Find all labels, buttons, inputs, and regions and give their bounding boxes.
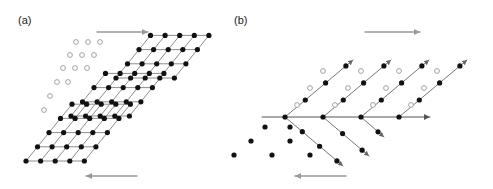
vertex-atom	[396, 114, 401, 119]
lattice-shear-diagram: (a) (b)	[0, 0, 493, 189]
filled-atom	[58, 116, 63, 121]
lattice-bond	[128, 50, 140, 64]
lattice-bond	[107, 118, 119, 132]
filled-atom	[169, 61, 174, 66]
filled-atom	[61, 130, 66, 135]
filled-atom	[183, 61, 188, 66]
filled-atom	[105, 130, 110, 135]
filled-atom	[161, 71, 166, 76]
filled-atom	[68, 113, 73, 118]
filled-atom	[303, 97, 308, 102]
panel-b: (b)	[231, 14, 467, 176]
filled-atom	[23, 158, 28, 163]
lattice-bond	[78, 118, 90, 132]
vacant-site	[61, 66, 66, 71]
lattice-bond	[49, 118, 61, 132]
lattice-bond	[171, 50, 183, 64]
vacant-site	[397, 69, 402, 74]
filled-atom	[360, 148, 365, 153]
filled-atom	[109, 99, 114, 104]
vacant-site	[85, 66, 90, 71]
filled-atom	[95, 99, 100, 104]
vertex-atom	[358, 114, 363, 119]
filled-atom	[417, 97, 422, 102]
lattice-bond	[160, 64, 172, 78]
filled-atom	[128, 75, 133, 80]
lattice-bond	[96, 133, 108, 147]
vacant-site	[384, 86, 389, 91]
filled-atom	[103, 71, 108, 76]
filled-atom	[67, 158, 72, 163]
filled-atom	[80, 99, 85, 104]
lattice-bond	[141, 88, 153, 102]
loose-atom	[307, 152, 312, 157]
lattice-bond	[145, 64, 157, 78]
vacant-site	[308, 86, 313, 91]
vacant-site	[359, 69, 364, 74]
lattice-bond	[116, 64, 128, 78]
lattice-bond	[64, 118, 76, 132]
filled-atom	[180, 47, 185, 52]
filled-atom	[341, 97, 346, 102]
lattice-bond	[55, 147, 66, 161]
figure-container: (a) (b)	[0, 0, 493, 189]
filled-atom	[118, 71, 123, 76]
upper-slip-ray	[323, 60, 391, 117]
filled-atom	[112, 113, 117, 118]
filled-atom	[121, 85, 126, 90]
filled-atom	[38, 158, 43, 163]
filled-atom	[140, 61, 145, 66]
filled-atom	[53, 158, 58, 163]
filled-atom	[457, 63, 462, 68]
filled-atom	[154, 61, 159, 66]
vertex-atom	[320, 114, 325, 119]
loose-atom	[287, 124, 292, 129]
filled-atom	[82, 158, 87, 163]
lattice-bond	[139, 35, 151, 49]
filled-atom	[90, 130, 95, 135]
filled-atom	[98, 113, 103, 118]
vacant-site	[48, 94, 53, 99]
filled-atom	[361, 80, 366, 85]
filled-atom	[135, 85, 140, 90]
vacant-site	[409, 103, 414, 108]
vacant-site	[346, 86, 351, 91]
loose-atom	[231, 152, 236, 157]
vacant-site	[371, 103, 376, 108]
filled-atom	[163, 33, 168, 38]
lattice-bond	[197, 35, 209, 49]
filled-atom	[437, 80, 442, 85]
filled-atom	[113, 75, 118, 80]
filled-atom	[343, 63, 348, 68]
filled-atom	[323, 80, 328, 85]
vacant-site	[295, 103, 300, 108]
filled-atom	[177, 33, 182, 38]
filled-atom	[150, 85, 155, 90]
filled-atom	[35, 144, 40, 149]
filled-atom	[91, 85, 96, 90]
loose-atom	[262, 124, 267, 129]
panel-b-label: (b)	[234, 14, 247, 26]
lattice-bond	[81, 133, 93, 147]
lattice-bond	[70, 147, 82, 161]
vacant-site	[80, 53, 85, 58]
filled-atom	[132, 71, 137, 76]
lattice-bond	[52, 133, 64, 147]
filled-atom	[124, 99, 129, 104]
filled-atom	[381, 63, 386, 68]
filled-atom	[192, 33, 197, 38]
filled-atom	[195, 47, 200, 52]
filled-atom	[143, 75, 148, 80]
vacant-site	[98, 40, 103, 45]
panel-b-atoms	[231, 63, 462, 163]
lattice-bond	[168, 35, 180, 49]
filled-atom	[172, 75, 177, 80]
filled-atom	[206, 33, 211, 38]
lattice-bond	[93, 118, 105, 132]
lattice-bond	[112, 88, 124, 102]
filled-atom	[399, 80, 404, 85]
filled-atom	[166, 47, 171, 52]
lattice-bond	[67, 133, 79, 147]
lattice-bond	[126, 88, 138, 102]
upper-slip-ray	[285, 60, 353, 117]
